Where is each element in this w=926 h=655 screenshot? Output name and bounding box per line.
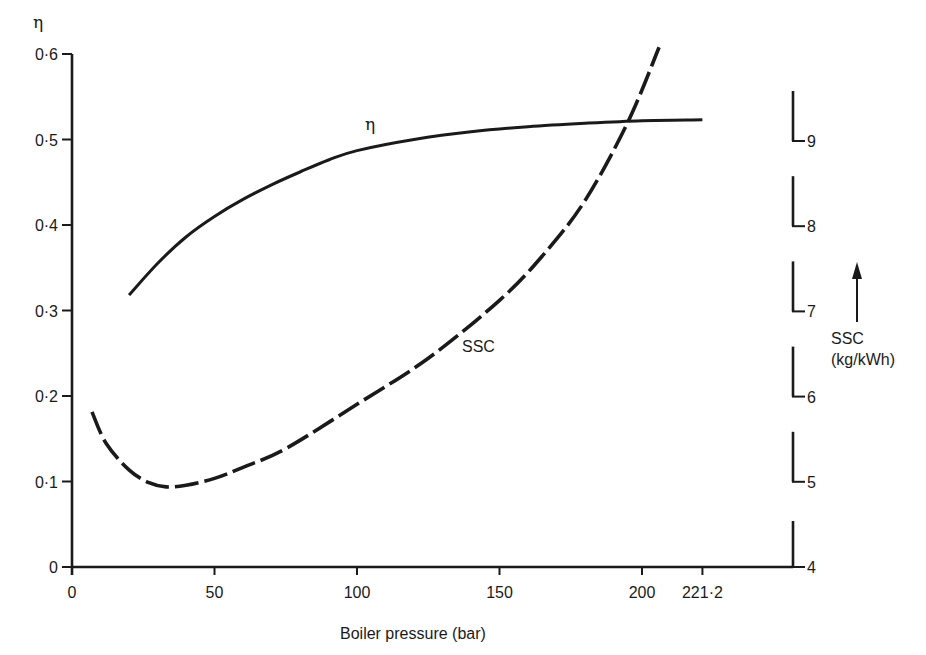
ssc-tick-label: 7 [807, 303, 816, 320]
y-tick-label: 0·4 [35, 217, 58, 234]
curves [92, 47, 702, 487]
right-axis-title-line2: (kg/kWh) [831, 351, 895, 368]
y-tick-label: 0 [49, 559, 58, 576]
y-tick-label: 0·6 [35, 46, 58, 63]
x-axis-title: Boiler pressure (bar) [340, 625, 486, 642]
ssc-curve-label: SSC [462, 338, 495, 355]
ssc-tick-label: 6 [807, 389, 816, 406]
x-tick-label: 50 [206, 584, 224, 601]
y-tick-label: 0·3 [35, 303, 58, 320]
eta-curve-label: η [365, 114, 375, 134]
y-axis-title: η [33, 12, 43, 32]
ssc-tick-label: 4 [807, 559, 816, 576]
axes: 00·10·20·30·40·50·6050100150200221·24567… [35, 46, 862, 601]
y-tick-label: 0·1 [35, 474, 58, 491]
arrow-up-icon [852, 262, 862, 279]
labels: η Boiler pressure (bar) η SSC SSC (kg/kW… [33, 12, 895, 642]
ssc-tick-label: 5 [807, 474, 816, 491]
x-tick-label: 200 [629, 584, 656, 601]
ssc-tick-label: 8 [807, 218, 816, 235]
right-axis-title-line1: SSC [831, 330, 864, 347]
ssc-tick-label: 9 [807, 133, 816, 150]
x-tick-label: 221·2 [682, 584, 723, 601]
y-tick-label: 0·5 [35, 132, 58, 149]
ssc-curve [92, 47, 659, 487]
x-tick-label: 150 [486, 584, 513, 601]
y-tick-label: 0·2 [35, 388, 58, 405]
x-tick-label: 0 [68, 584, 77, 601]
x-tick-label: 100 [344, 584, 371, 601]
chart-canvas: 00·10·20·30·40·50·6050100150200221·24567… [0, 0, 926, 655]
